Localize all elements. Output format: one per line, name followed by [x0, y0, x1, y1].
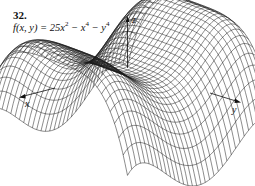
x-axis-label: x: [25, 98, 29, 109]
z-axis-label: z: [132, 14, 136, 25]
y-axis-label: y: [232, 104, 236, 115]
surface-plot: [0, 0, 255, 186]
y-axis-arrow-icon: [235, 99, 242, 104]
y-axis: [210, 93, 236, 101]
